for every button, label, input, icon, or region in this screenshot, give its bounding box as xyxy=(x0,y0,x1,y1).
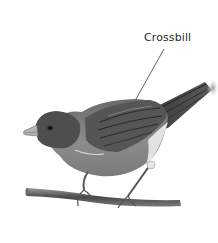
bird-eye xyxy=(47,126,52,130)
label-leader-line xyxy=(136,49,164,99)
crossbill-label: Crossbill xyxy=(144,31,191,44)
branch xyxy=(26,188,182,207)
bird-beak xyxy=(23,125,38,136)
diagram-canvas: Crossbill xyxy=(0,0,218,243)
bird-head xyxy=(23,111,80,148)
